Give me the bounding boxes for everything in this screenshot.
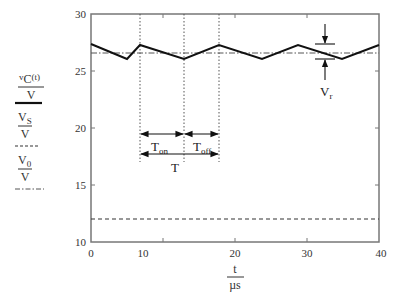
toff-label: Toff <box>193 139 211 156</box>
y-tick-labels: 10 15 20 25 30 <box>75 8 87 248</box>
y-tick-label: 15 <box>75 179 87 191</box>
x-tick-label: 30 <box>302 247 314 259</box>
series-vc-line <box>91 44 379 59</box>
x-ticks <box>163 14 307 242</box>
x-tick-label: 0 <box>88 247 94 259</box>
x-tick-label: 40 <box>376 247 388 259</box>
legend-vs: VS V <box>15 110 40 146</box>
y-tick-label: 25 <box>75 65 87 77</box>
x-tick-labels: 0 10 20 30 40 <box>88 247 387 259</box>
plot-frame <box>91 14 379 242</box>
legend-vc-den: V <box>27 88 36 102</box>
ton-label: Ton <box>151 139 168 156</box>
y-tick-label: 30 <box>75 8 87 20</box>
legend-v0-den: V <box>21 170 30 184</box>
period-label: T <box>171 160 179 175</box>
legend-vs-num: VS <box>18 110 32 126</box>
legend-v0-num: V0 <box>18 153 32 169</box>
legend-v0: V0 V <box>15 153 44 189</box>
x-axis-label-num: t <box>233 262 237 276</box>
x-tick-label: 20 <box>230 247 242 259</box>
vr-label: Vr <box>320 84 332 101</box>
y-ticks <box>91 71 379 185</box>
y-tick-label: 10 <box>75 236 87 248</box>
x-tick-label: 10 <box>138 247 150 259</box>
legend-vc-num: vC(t) <box>19 72 40 86</box>
legend-vc: vC(t) V <box>15 72 44 103</box>
chart: 0 10 20 30 40 10 15 20 25 30 Ton Toff T … <box>0 0 400 302</box>
x-axis-label-den: µs <box>229 278 241 292</box>
legend-vs-den: V <box>21 127 30 141</box>
y-tick-label: 20 <box>75 122 87 134</box>
